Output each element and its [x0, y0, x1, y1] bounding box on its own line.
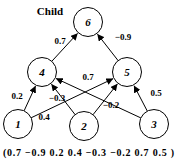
edge-weight-5-6: −0.9 — [115, 32, 132, 42]
node-label-6: 6 — [85, 16, 91, 28]
edge-1-to-4 — [24, 86, 35, 111]
weight-vector: (0.7 −0.9 0.2 0.4 −0.3 −0.2 0.7 0.5 ) — [3, 147, 174, 159]
edge-weight-3-5: 0.5 — [150, 88, 162, 98]
node-label-1: 1 — [15, 118, 21, 130]
diagram-canvas: Child 123456 0.2−0.30.70.4−0.20.50.7−0.9… — [0, 0, 178, 163]
node-label-5: 5 — [124, 66, 130, 78]
network-diagram: Child 123456 0.2−0.30.70.4−0.20.50.7−0.9… — [0, 0, 178, 163]
node-label-2: 2 — [80, 120, 87, 132]
edge-3-to-5 — [134, 86, 147, 111]
edge-weight-1-5: 0.4 — [38, 112, 50, 122]
node-label-3: 3 — [150, 118, 157, 130]
edge-weight-4-6: 0.7 — [54, 36, 66, 46]
edge-weight-2-4: −0.3 — [49, 93, 66, 103]
edge-weight-2-5: −0.2 — [103, 100, 120, 110]
diagram-title: Child — [37, 5, 63, 17]
node-label-4: 4 — [38, 66, 45, 78]
edge-weight-3-4: 0.7 — [82, 72, 94, 82]
edge-weight-1-4: 0.2 — [11, 91, 23, 101]
